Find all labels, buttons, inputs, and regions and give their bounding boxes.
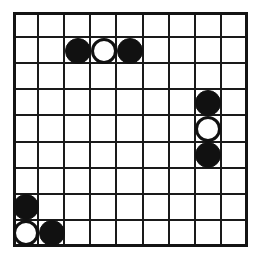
reversi-board[interactable]: [13, 12, 248, 247]
white-stone-r9-c1[interactable]: [13, 220, 39, 246]
black-stone-r2-c3[interactable]: [65, 38, 91, 64]
board-container: [0, 0, 263, 262]
black-stone-r8-c1[interactable]: [13, 194, 39, 220]
white-stone-r5-c8[interactable]: [195, 116, 221, 142]
black-stone-r4-c8[interactable]: [195, 90, 221, 116]
stones-layer: [13, 12, 248, 247]
black-stone-r9-c2[interactable]: [39, 220, 65, 246]
black-stone-r6-c8[interactable]: [195, 142, 221, 168]
white-stone-r2-c4[interactable]: [91, 38, 117, 64]
black-stone-r2-c5[interactable]: [117, 38, 143, 64]
